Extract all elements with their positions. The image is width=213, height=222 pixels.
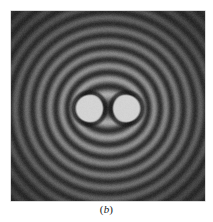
- figure-root: (b): [0, 0, 213, 222]
- figure-caption: (b): [0, 203, 213, 215]
- interference-pattern-image: [11, 11, 205, 201]
- interference-pattern-panel: [11, 11, 205, 201]
- caption-close-paren: ): [109, 203, 113, 215]
